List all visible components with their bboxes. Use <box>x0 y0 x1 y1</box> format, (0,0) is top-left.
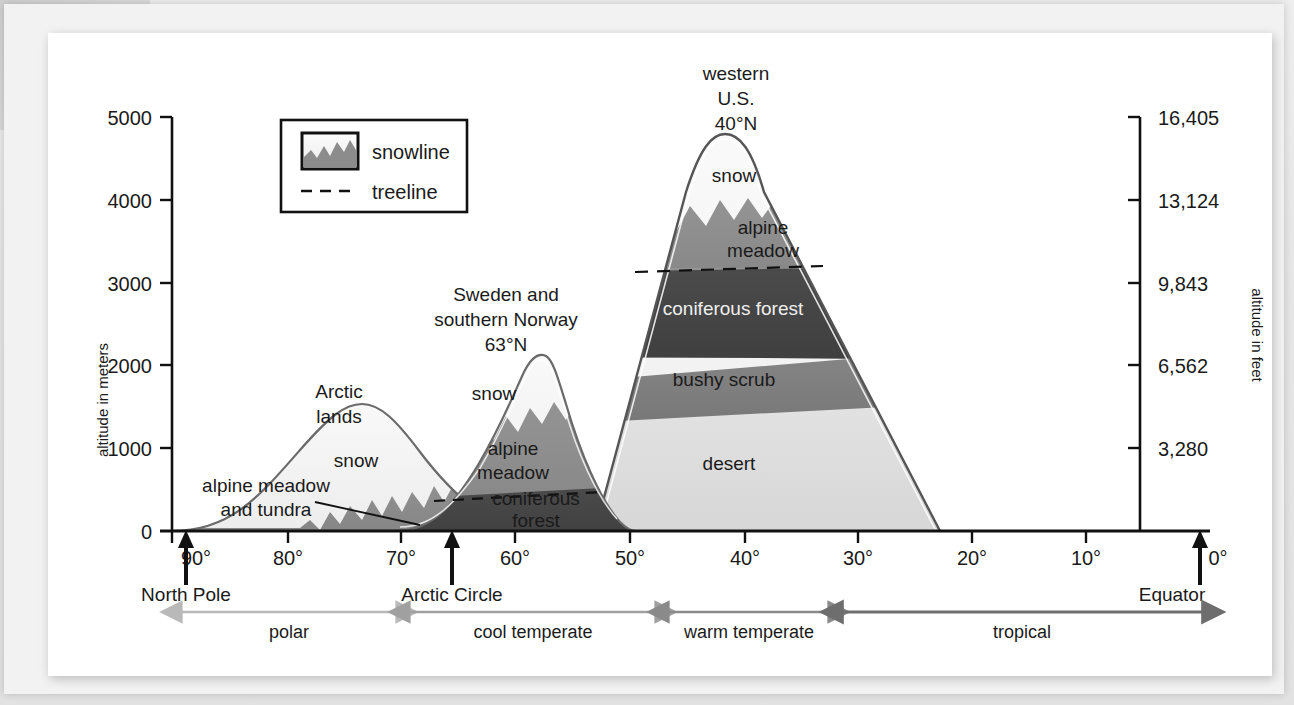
caption-sweden-line1: Sweden and <box>453 284 559 305</box>
caption-us-line1: western <box>702 63 770 84</box>
marker-north-pole: North Pole <box>141 530 231 605</box>
band-label-alpine-meadow-tundra-line1: alpine meadow <box>202 475 330 496</box>
x-tick-10: 10° <box>1071 547 1101 569</box>
mountain-western-us <box>560 100 980 540</box>
band-label-coniferous-forest-sweden-line1: coniferous <box>492 488 580 509</box>
zone-tropical: tropical <box>841 612 1204 642</box>
legend-label-treeline: treeline <box>372 181 438 203</box>
band-label-alpine-meadow-us-line2: meadow <box>727 240 799 261</box>
band-label-bushy-scrub-us: bushy scrub <box>673 369 775 390</box>
caption-sweden-line2: southern Norway <box>434 309 578 330</box>
marker-label-arctic-circle: Arctic Circle <box>401 584 502 605</box>
y-right-tick-6562: 6,562 <box>1158 355 1208 377</box>
band-label-alpine-meadow-tundra-line2: and tundra <box>221 499 312 520</box>
band-label-alpine-meadow-sweden-line1: alpine <box>488 438 539 459</box>
y-left-tick-0: 0 <box>141 521 152 543</box>
x-tick-60: 60° <box>500 547 530 569</box>
x-tick-0: 0° <box>1208 547 1227 569</box>
y-left-tick-1000: 1000 <box>108 438 153 460</box>
zone-polar: polar <box>180 612 398 642</box>
x-tick-50: 50° <box>615 547 645 569</box>
band-label-coniferous-forest-us: coniferous forest <box>663 298 804 319</box>
marker-arctic-circle: Arctic Circle <box>401 530 502 605</box>
caption-arctic-lands-line2: lands <box>316 406 361 427</box>
y-left-tick-5000: 5000 <box>108 107 153 129</box>
y-axis-left-ticks <box>160 117 172 448</box>
marker-label-equator: Equator <box>1139 584 1206 605</box>
band-label-snow-arctic: snow <box>334 450 379 471</box>
y-left-tick-4000: 4000 <box>108 190 153 212</box>
band-label-desert-us: desert <box>703 453 757 474</box>
y-left-tick-3000: 3000 <box>108 273 153 295</box>
x-tick-30: 30° <box>843 547 873 569</box>
band-label-coniferous-forest-sweden-line2: forest <box>512 510 560 531</box>
legend-label-snowline: snowline <box>372 141 450 163</box>
y-axis-left-labels: 5000 4000 3000 2000 1000 0 <box>108 107 153 543</box>
caption-arctic-lands-line1: Arctic <box>315 381 363 402</box>
band-label-snow-sweden: snow <box>472 383 517 404</box>
y-axis-right-title: altitude in feet <box>1249 288 1266 382</box>
caption-us-line2: U.S. <box>718 88 755 109</box>
legend: snowline treeline <box>281 120 467 212</box>
band-label-alpine-meadow-us-line1: alpine <box>738 217 789 238</box>
x-tick-80: 80° <box>273 547 303 569</box>
zone-cool-temperate: cool temperate <box>408 612 657 642</box>
zone-label-warm-temperate: warm temperate <box>683 622 814 642</box>
zone-label-polar: polar <box>269 622 309 642</box>
zone-label-tropical: tropical <box>993 622 1051 642</box>
y-axis-right-labels: 16,405 13,124 9,843 6,562 3,280 <box>1158 107 1219 460</box>
marker-label-north-pole: North Pole <box>141 584 231 605</box>
caption-us-line3: 40°N <box>715 113 757 134</box>
y-axis-right-ticks <box>1128 117 1140 448</box>
altitude-latitude-vegetation-diagram: 5000 4000 3000 2000 1000 0 16,405 13,124… <box>0 0 1294 705</box>
x-axis-ticks <box>172 531 1200 543</box>
x-tick-40: 40° <box>730 547 760 569</box>
x-tick-20: 20° <box>957 547 987 569</box>
y-right-tick-3280: 3,280 <box>1158 438 1208 460</box>
zone-warm-temperate: warm temperate <box>667 612 830 642</box>
band-label-snow-us: snow <box>712 165 757 186</box>
y-right-tick-9843: 9,843 <box>1158 273 1208 295</box>
band-label-alpine-meadow-sweden-line2: meadow <box>477 462 549 483</box>
climate-zone-bars: polar cool temperate warm temperate trop… <box>180 612 1204 642</box>
x-axis-labels: 90° 80° 70° 60° 50° 40° 30° 20° 10° 0° <box>181 547 1228 569</box>
marker-equator: Equator <box>1139 530 1208 605</box>
x-tick-70: 70° <box>386 547 416 569</box>
caption-sweden-line3: 63°N <box>485 334 527 355</box>
y-left-tick-2000: 2000 <box>108 355 153 377</box>
y-axis-left-title: altitude in meters <box>94 343 111 457</box>
zone-label-cool-temperate: cool temperate <box>473 622 592 642</box>
y-right-tick-13124: 13,124 <box>1158 190 1219 212</box>
y-right-tick-16405: 16,405 <box>1158 107 1219 129</box>
